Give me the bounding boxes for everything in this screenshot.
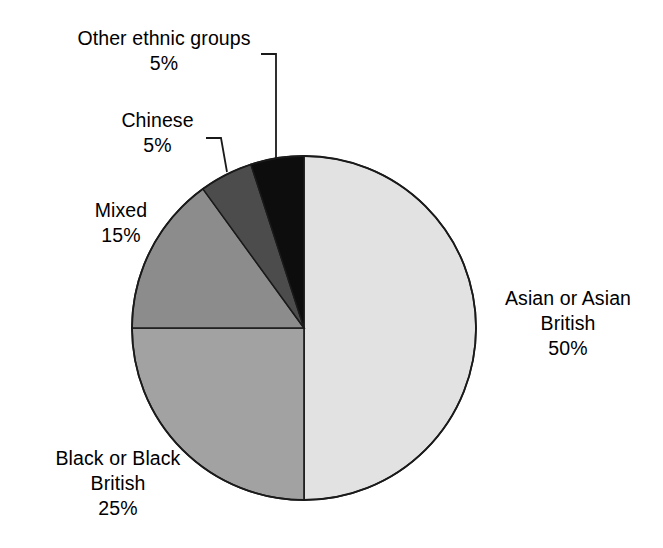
slice-label-other-ethnic-groups: Other ethnic groups 5% [57, 26, 271, 76]
slice-label-name-line2: British [486, 311, 650, 336]
slice-label-value: 5% [57, 51, 271, 76]
slice-label-name-line2: British [23, 471, 213, 496]
slice-label-value: 15% [66, 223, 176, 248]
slice-label-name-line1: Black or Black [23, 446, 213, 471]
slice-label-name: Chinese [95, 108, 220, 133]
slice-label-mixed: Mixed 15% [66, 198, 176, 248]
slice-label-value: 50% [486, 336, 650, 361]
slice-label-name: Mixed [66, 198, 176, 223]
slice-label-asian-or-asian-british: Asian or Asian British 50% [486, 286, 650, 361]
pie-slice-asian-or-asian-british[interactable] [304, 156, 476, 500]
slice-label-value: 5% [95, 133, 220, 158]
pie-chart: Other ethnic groups 5% Chinese 5% Mixed … [0, 0, 663, 548]
slice-label-name-line1: Asian or Asian [486, 286, 650, 311]
slice-label-chinese: Chinese 5% [95, 108, 220, 158]
slice-label-value: 25% [23, 496, 213, 521]
slice-label-black-or-black-british: Black or Black British 25% [23, 446, 213, 521]
slice-label-name: Other ethnic groups [57, 26, 271, 51]
